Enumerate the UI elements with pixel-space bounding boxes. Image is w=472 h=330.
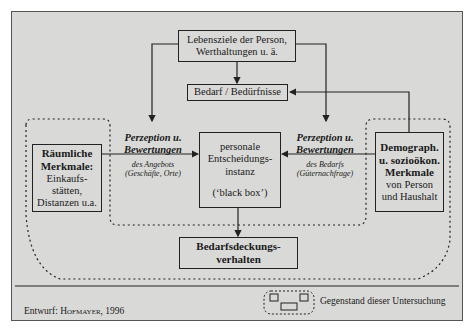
center-line1: personale xyxy=(220,141,260,153)
demo-title3: Merkmale xyxy=(385,166,434,179)
right-perception-sub1: des Bedarfs xyxy=(282,160,368,169)
spatial-title2: Merkmale: xyxy=(41,160,94,173)
right-perception-title1: Perzeption u. xyxy=(282,132,368,144)
needs-label: Bedarf / Bedürfnisse xyxy=(194,86,281,98)
spatial-line2: stätten, xyxy=(52,185,82,197)
life-goals-line2: Werthaltungen u. ä. xyxy=(196,46,278,58)
spatial-line1: Einkaufs- xyxy=(47,173,88,185)
left-perception-title2: Bewertungen xyxy=(110,144,196,156)
legend-label: Gegenstand dieser Untersuchung xyxy=(320,296,446,306)
demographic-features-box: Demograph. u. sozioökon. Merkmale von Pe… xyxy=(375,132,444,212)
center-line4: (‘black box’) xyxy=(212,187,267,199)
outcome-line1: Bedarfsdeckungs- xyxy=(196,240,280,253)
center-line3: instanz xyxy=(225,166,255,178)
spatial-line3: Distanzen u.a. xyxy=(37,197,97,209)
demo-title1: Demograph. xyxy=(380,141,438,154)
life-goals-line1: Lebensziele der Person, xyxy=(187,34,287,46)
demo-line2: und Haushalt xyxy=(382,191,438,203)
credit-text: Entwurf: Hofmayer, 1996 xyxy=(24,306,124,316)
outcome-line2: verhalten xyxy=(216,253,261,266)
needs-box: Bedarf / Bedürfnisse xyxy=(187,84,288,101)
credit-prefix: Entwurf: xyxy=(24,306,60,316)
right-perception-title2: Bewertungen xyxy=(282,144,368,156)
credit-year: , 1996 xyxy=(101,306,125,316)
demo-title2: u. sozioökon. xyxy=(379,154,440,167)
left-perception-title1: Perzeption u. xyxy=(110,132,196,144)
spatial-title1: Räumliche xyxy=(42,147,93,160)
decision-instance-box: personale Entscheidungs- instanz (‘black… xyxy=(199,132,281,208)
center-line2: Entscheidungs- xyxy=(208,153,273,165)
left-perception-sub2: (Geschäfte, Orte) xyxy=(110,169,196,178)
outcome-box: Bedarfsdeckungs- verhalten xyxy=(179,237,298,269)
demo-line1: von Person xyxy=(386,179,433,191)
right-perception-sub2: (Güternachfrage) xyxy=(282,169,368,178)
credit-author: Hofmayer xyxy=(60,306,100,316)
left-perception-label: Perzeption u. Bewertungen des Angebots (… xyxy=(110,132,196,179)
left-perception-sub1: des Angebots xyxy=(110,160,196,169)
life-goals-box: Lebensziele der Person, Werthaltungen u.… xyxy=(178,30,296,62)
spatial-features-box: Räumliche Merkmale: Einkaufs- stätten, D… xyxy=(32,144,102,212)
right-perception-label: Perzeption u. Bewertungen des Bedarfs (G… xyxy=(282,132,368,179)
